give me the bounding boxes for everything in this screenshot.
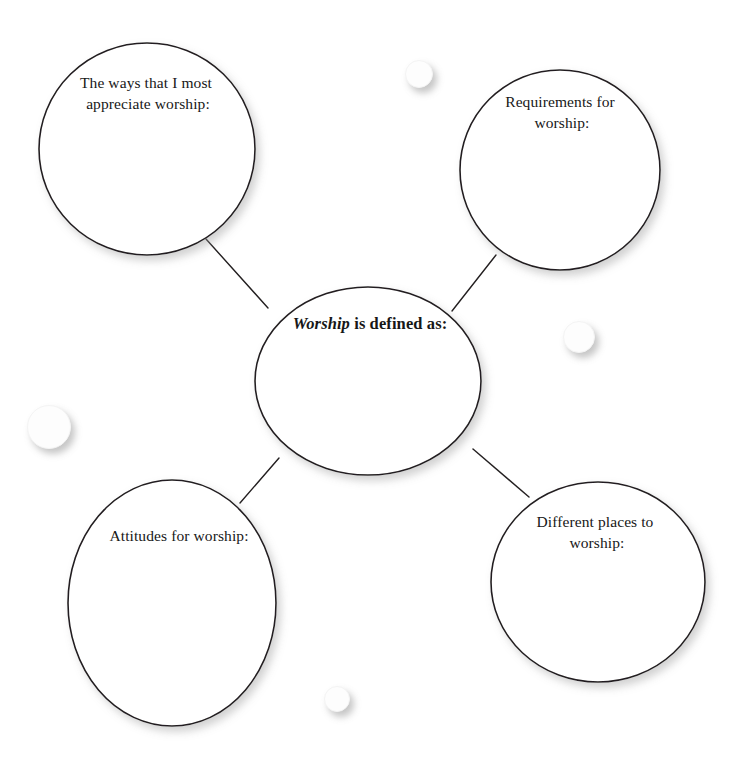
connector-center-to-bottom-left bbox=[240, 458, 279, 503]
node-bottom-left-label: Attitudes for worship: bbox=[109, 527, 248, 544]
speck-bottom bbox=[324, 686, 350, 712]
node-center-label-rest: is defined as: bbox=[350, 314, 447, 333]
node-center-keyword: Worship bbox=[293, 314, 350, 333]
connector-center-to-top-right bbox=[452, 255, 496, 311]
speck-left bbox=[27, 405, 71, 449]
node-top-right[interactable]: Requirements for worship: bbox=[460, 70, 660, 270]
speck-top bbox=[405, 60, 433, 88]
node-bottom-left[interactable]: Attitudes for worship: bbox=[68, 480, 276, 726]
node-bottom-right[interactable]: Different places to worship: bbox=[491, 482, 705, 682]
node-center[interactable]: Worship is defined as: bbox=[255, 287, 481, 475]
node-bottom-left-shape[interactable] bbox=[68, 480, 276, 726]
worksheet-canvas: The ways that I most appreciate worship:… bbox=[0, 0, 735, 771]
connector-center-to-bottom-right bbox=[473, 449, 529, 497]
mind-map-diagram: The ways that I most appreciate worship:… bbox=[0, 0, 735, 771]
node-top-left[interactable]: The ways that I most appreciate worship: bbox=[39, 43, 255, 255]
speck-right bbox=[563, 321, 595, 353]
node-center-label: Worship is defined as: bbox=[293, 314, 448, 333]
node-bottom-right-shape[interactable] bbox=[491, 482, 705, 682]
connector-center-to-top-left bbox=[206, 239, 268, 308]
